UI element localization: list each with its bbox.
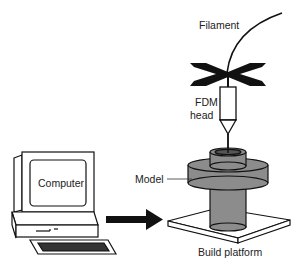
computer-label: Computer [38,177,84,189]
model-label: Model [135,173,164,185]
fdm-head-label-line1: FDM [195,96,218,108]
arrow-right-icon [106,209,163,230]
fdm-head-label-line2: head [190,109,213,121]
filament-label: Filament [199,19,239,31]
computer-icon [12,152,116,254]
build-platform-label: Build platform [198,246,262,258]
fdm-diagram [0,0,304,269]
fdm-head [220,87,236,134]
